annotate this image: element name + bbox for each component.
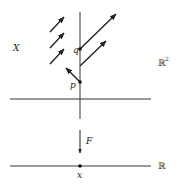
- point-p: [78, 80, 82, 84]
- label-p: p: [70, 80, 76, 90]
- label-R2-exponent: 2: [165, 55, 169, 62]
- label-x: x: [77, 170, 82, 180]
- vector-arrow-left-2: [50, 33, 64, 48]
- point-x: [78, 164, 82, 168]
- label-R: ℝ: [158, 161, 166, 171]
- vector-arrow-from-q: [80, 14, 116, 49]
- label-F: F: [85, 136, 93, 146]
- vector-arrow-left-1: [50, 17, 64, 32]
- vector-arrow-left-3: [50, 49, 64, 64]
- fibration-diagram: X q p ℝ 2 F x ℝ: [0, 0, 177, 185]
- label-q: q: [73, 45, 79, 55]
- label-X: X: [12, 43, 20, 53]
